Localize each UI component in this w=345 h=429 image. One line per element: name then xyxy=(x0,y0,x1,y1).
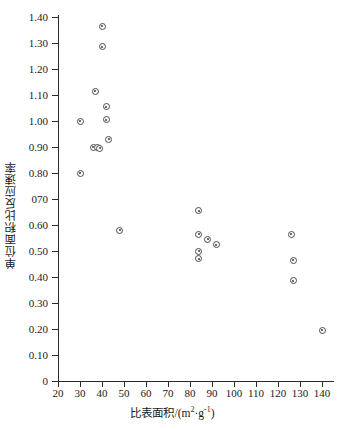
data-point xyxy=(290,277,297,284)
data-point xyxy=(195,255,202,262)
data-point xyxy=(92,88,99,95)
data-point xyxy=(204,236,211,243)
x-axis-title-text: 比表面积/(m xyxy=(130,407,190,419)
data-point xyxy=(195,231,202,238)
plot-area xyxy=(58,17,333,381)
y-axis-title-text: 单位面积比反应速率 xyxy=(3,161,19,269)
x-tick-label: 140 xyxy=(307,388,337,399)
data-point xyxy=(213,241,220,248)
data-point xyxy=(195,207,202,214)
data-point xyxy=(77,118,84,125)
x-axis-title: 比表面积/(m2·g-1) xyxy=(0,404,345,420)
data-point xyxy=(99,23,106,30)
data-point xyxy=(105,136,112,143)
data-point xyxy=(195,248,202,255)
x-axis-title-text: ) xyxy=(211,407,215,419)
data-point xyxy=(96,145,103,152)
data-point xyxy=(103,103,110,110)
y-axis-title: 单位面积比反应速率 xyxy=(2,0,20,429)
data-point xyxy=(99,43,106,50)
data-point xyxy=(290,257,297,264)
data-point xyxy=(77,170,84,177)
data-point xyxy=(103,116,110,123)
x-axis-title-text: ·g xyxy=(194,407,204,419)
x-axis-title-superscript: -1 xyxy=(204,405,211,414)
data-point xyxy=(116,227,123,234)
data-point xyxy=(288,231,295,238)
x-axis-line xyxy=(57,381,334,382)
data-point xyxy=(319,327,326,334)
scatter-chart: 00.100.200.300.400.500.600700.800.901.00… xyxy=(0,0,345,429)
